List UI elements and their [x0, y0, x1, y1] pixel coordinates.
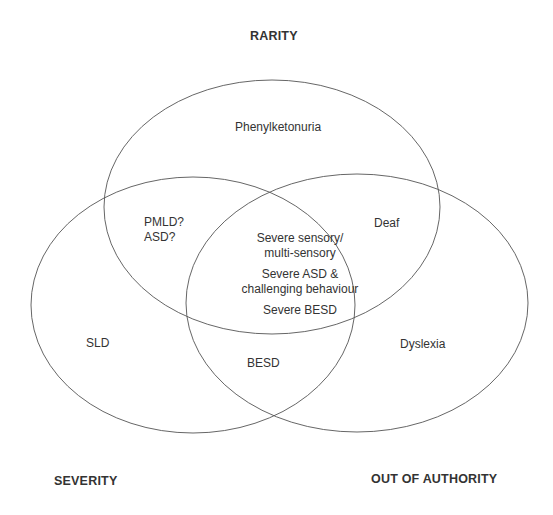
label-multi-sensory: multi-sensory: [225, 246, 375, 261]
region-rarity-severity: PMLD? ASD?: [144, 215, 184, 245]
label-severe-asd: Severe ASD &: [225, 267, 375, 282]
label-pmld: PMLD?: [144, 215, 184, 230]
label-asd: ASD?: [144, 230, 184, 245]
region-all-three: Severe sensory/ multi-sensory Severe ASD…: [225, 231, 375, 318]
label-severe-sensory: Severe sensory/: [225, 231, 375, 246]
region-rarity-out-of-authority: Deaf: [374, 216, 399, 231]
region-rarity-only: Phenylketonuria: [235, 120, 321, 135]
rarity-heading: RARITY: [250, 29, 298, 43]
out-of-authority-heading: OUT OF AUTHORITY: [371, 472, 497, 486]
region-severity-out-of-authority: BESD: [247, 356, 280, 371]
label-challenging-behaviour: challenging behaviour: [225, 282, 375, 297]
label-severe-besd: Severe BESD: [225, 303, 375, 318]
region-out-of-authority-only: Dyslexia: [400, 337, 445, 352]
region-severity-only: SLD: [86, 336, 109, 351]
severity-heading: SEVERITY: [54, 474, 117, 488]
